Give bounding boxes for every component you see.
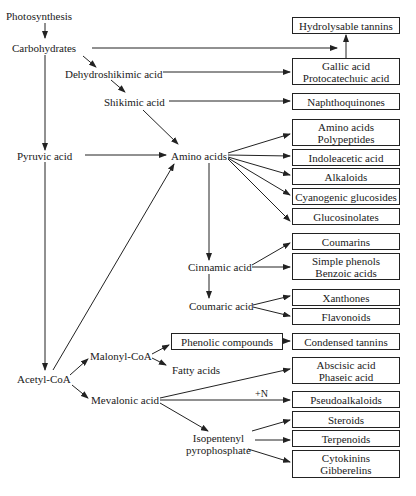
box-gallic-protocatechuic-acid: Gallic acid Protocatechuic acid bbox=[292, 58, 400, 85]
node-photosynthesis: Photosynthesis bbox=[6, 10, 72, 22]
label: Glucosinolates bbox=[313, 211, 378, 223]
box-simple-phenols-benzoic-acids: Simple phenols Benzoic acids bbox=[292, 253, 400, 280]
label: Pseudoalkaloids bbox=[310, 394, 382, 406]
box-naphthoquinones: Naphthoquinones bbox=[292, 93, 400, 110]
box-indoleacetic-acid: Indoleacetic acid bbox=[292, 149, 400, 166]
label-line1: Simple phenols bbox=[312, 255, 380, 267]
isopentenyl-line1: Isopentenyl bbox=[186, 432, 251, 444]
node-acetyl-coa: Acetyl-CoA bbox=[17, 373, 71, 385]
label-line1: Abscisic acid bbox=[317, 359, 376, 371]
label-line1: Gallic acid bbox=[322, 60, 370, 72]
label: Flavonoids bbox=[322, 311, 371, 323]
label: Alkaloids bbox=[325, 171, 368, 183]
label-line2: Protocatechuic acid bbox=[303, 72, 389, 84]
box-hydrolysable-tannins: Hydrolysable tannins bbox=[292, 17, 400, 34]
label: Steroids bbox=[328, 414, 364, 426]
label: Indoleacetic acid bbox=[309, 152, 384, 164]
box-steroids: Steroids bbox=[292, 411, 400, 428]
box-alkaloids: Alkaloids bbox=[292, 168, 400, 185]
node-malonyl-coa: Malonyl-CoA bbox=[90, 350, 152, 362]
label: Coumarins bbox=[322, 236, 370, 248]
isopentenyl-line2: pyrophosphate bbox=[186, 444, 251, 456]
label-line2: Gibberelins bbox=[320, 464, 371, 476]
label: Xanthones bbox=[322, 292, 369, 304]
box-flavonoids: Flavonoids bbox=[292, 308, 400, 325]
node-carbohydrates: Carbohydrates bbox=[12, 42, 76, 54]
node-isopentenyl-pyrophosphate: Isopentenyl pyrophosphate bbox=[186, 432, 251, 456]
label-line1: Amino acids bbox=[318, 121, 374, 133]
node-amino-acids: Amino acids bbox=[171, 150, 227, 162]
label: Terpenoids bbox=[322, 433, 371, 445]
label-line2: Polypeptides bbox=[318, 133, 375, 145]
box-amino-acids-polypeptides: Amino acids Polypeptides bbox=[292, 119, 400, 146]
node-mevalonic-acid: Mevalonic acid bbox=[91, 394, 159, 406]
label: Hydrolysable tannins bbox=[299, 20, 393, 32]
node-pyruvic-acid: Pyruvic acid bbox=[17, 150, 72, 162]
pathway-diagram: Photosynthesis Carbohydrates Dehydroshik… bbox=[0, 0, 416, 496]
label: Phenolic compounds bbox=[181, 336, 273, 348]
label-line2: Benzoic acids bbox=[315, 267, 376, 279]
annotation-plus-n: +N bbox=[255, 388, 268, 399]
label: Naphthoquinones bbox=[307, 96, 385, 108]
box-xanthones: Xanthones bbox=[292, 289, 400, 306]
node-dehydroshikimic-acid: Dehydroshikimic acid bbox=[65, 68, 162, 80]
label-line2: Phaseic acid bbox=[319, 371, 374, 383]
node-cinnamic-acid: Cinnamic acid bbox=[188, 261, 252, 273]
label: Condensed tannins bbox=[304, 336, 387, 348]
box-pseudoalkaloids: Pseudoalkaloids bbox=[292, 391, 400, 408]
box-cyanogenic-glucosides: Cyanogenic glucosides bbox=[292, 188, 400, 205]
node-coumaric-acid: Coumaric acid bbox=[189, 300, 253, 312]
label-line1: Cytokinins bbox=[322, 452, 370, 464]
box-abscisic-phaseic-acid: Abscisic acid Phaseic acid bbox=[292, 357, 400, 384]
box-glucosinolates: Glucosinolates bbox=[292, 208, 400, 225]
box-condensed-tannins: Condensed tannins bbox=[292, 333, 400, 350]
box-cytokinins-gibberelins: Cytokinins Gibberelins bbox=[292, 450, 400, 478]
box-coumarins: Coumarins bbox=[292, 233, 400, 250]
label: Cyanogenic glucosides bbox=[295, 191, 397, 203]
node-shikimic-acid: Shikimic acid bbox=[104, 96, 165, 108]
box-terpenoids: Terpenoids bbox=[292, 430, 400, 447]
box-phenolic-compounds: Phenolic compounds bbox=[171, 333, 283, 350]
node-fatty-acids: Fatty acids bbox=[172, 364, 220, 376]
